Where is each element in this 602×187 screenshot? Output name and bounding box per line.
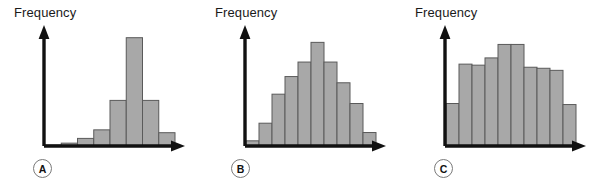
histogram-panel-a: Frequency A: [0, 0, 201, 187]
histogram-bar: [126, 38, 142, 146]
histogram-plot-c: [401, 0, 602, 187]
histogram-bar: [485, 58, 498, 146]
histogram-figure: Frequency A Frequency B Freque: [0, 0, 602, 187]
histogram-bar: [524, 67, 537, 146]
bars-c: [446, 44, 576, 146]
histogram-bar: [550, 70, 563, 146]
histogram-bar: [472, 65, 485, 146]
histogram-bar: [110, 100, 126, 146]
histogram-bar: [94, 130, 110, 146]
histogram-bar: [498, 44, 511, 146]
histogram-panel-c: Frequency C: [401, 0, 602, 187]
histogram-bar: [259, 123, 272, 146]
panel-tag-a: A: [33, 159, 52, 178]
histogram-plot-a: [0, 0, 201, 187]
histogram-bar: [324, 62, 337, 146]
bars-b: [246, 42, 376, 146]
histogram-panel-b: Frequency B: [201, 0, 402, 187]
histogram-bar: [272, 94, 285, 146]
histogram-bar: [350, 104, 363, 146]
histogram-plot-b: [201, 0, 402, 187]
histogram-bar: [446, 104, 459, 146]
histogram-bar: [537, 68, 550, 146]
histogram-bar: [143, 100, 159, 146]
histogram-bar: [511, 44, 524, 146]
histogram-bar: [285, 77, 298, 146]
histogram-bar: [459, 64, 472, 146]
bars-a: [45, 38, 175, 146]
panel-tag-c: C: [434, 159, 453, 178]
histogram-bar: [311, 42, 324, 146]
panel-tag-b: B: [231, 159, 250, 178]
histogram-bar: [337, 83, 350, 146]
histogram-bar: [298, 62, 311, 146]
histogram-bar: [563, 105, 576, 146]
